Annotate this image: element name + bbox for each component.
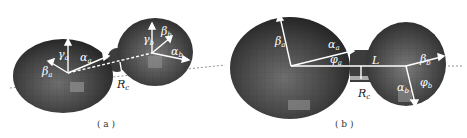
- panel-b: βa αa φa L Rc βb φb αb: [230, 15, 462, 119]
- figure-canvas: γa αa βa γb βb αb Rc βa αa φa L Rc βb φb: [0, 0, 467, 138]
- label-Rc-b: Rc: [357, 87, 370, 101]
- label-L: L: [371, 54, 379, 67]
- caption-b: ( b ): [335, 119, 354, 129]
- caption-a: ( a ): [97, 119, 115, 129]
- panel-a: γa αa βa γb βb αb Rc: [10, 18, 225, 113]
- label-Rc-a: Rc: [116, 78, 129, 92]
